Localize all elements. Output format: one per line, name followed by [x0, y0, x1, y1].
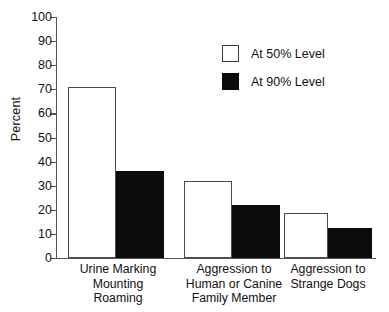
- legend-label: At 50% Level: [251, 47, 325, 61]
- bar-chart: Percent 0102030405060708090100 At 50% Le…: [0, 0, 389, 312]
- tick-label: 70: [38, 82, 52, 96]
- tick-label: 20: [38, 203, 52, 217]
- tick-label: 80: [38, 58, 52, 72]
- tick-label: 30: [38, 179, 52, 193]
- legend-item-1[interactable]: At 50% Level: [222, 45, 325, 62]
- legend-swatch-dark: [222, 73, 239, 90]
- legend: At 50% LevelAt 90% Level: [222, 45, 325, 101]
- legend-swatch-light: [222, 45, 239, 62]
- y-axis-spine: [56, 17, 57, 258]
- legend-item-2[interactable]: At 90% Level: [222, 73, 325, 90]
- bar-1-at-50-level: [68, 87, 116, 258]
- tick-label: 100: [31, 10, 52, 24]
- y-axis-title: Percent: [9, 79, 23, 159]
- tick-label: 90: [38, 34, 52, 48]
- bar-3-at-50-level: [284, 213, 328, 258]
- bar-3-at-90-level: [328, 228, 372, 258]
- tick-label: 60: [38, 106, 52, 120]
- bar-2-at-90-level: [232, 205, 280, 258]
- x-axis-spine: [56, 258, 376, 259]
- bar-group-1: [68, 17, 168, 258]
- category-label-line: Family Member: [162, 291, 306, 306]
- category-label-3: Aggression toStrange Dogs: [262, 262, 389, 291]
- tick-label: 50: [38, 131, 52, 145]
- tick-label: 10: [38, 227, 52, 241]
- legend-label: At 90% Level: [251, 75, 325, 89]
- plot-area: 0102030405060708090100: [56, 17, 376, 258]
- bar-2-at-50-level: [184, 181, 232, 258]
- category-label-line: Strange Dogs: [262, 277, 389, 292]
- category-label-line: Aggression to: [262, 262, 389, 277]
- x-axis-category-labels: Urine MarkingMountingRoamingAggression t…: [56, 262, 376, 310]
- bar-1-at-90-level: [116, 171, 164, 258]
- tick-label: 40: [38, 155, 52, 169]
